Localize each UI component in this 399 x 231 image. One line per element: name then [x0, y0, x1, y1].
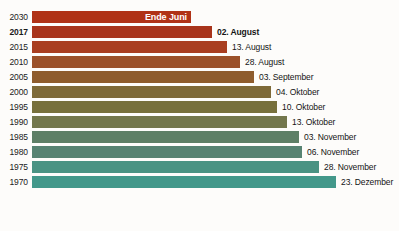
- bar-value-label: 10. Oktober: [282, 101, 325, 113]
- bar-value-label: 28. August: [245, 56, 284, 68]
- bar-track: 10. Oktober: [32, 101, 399, 113]
- bar-2017[interactable]: [32, 26, 212, 38]
- bar-1985[interactable]: [32, 131, 299, 143]
- bar-value-label-inside: Ende Juni: [145, 12, 191, 22]
- bar-1995[interactable]: [32, 101, 277, 113]
- bar-1990[interactable]: [32, 116, 287, 128]
- bar-value-label: 13. August: [232, 41, 271, 53]
- year-axis-label: 1995: [0, 101, 32, 113]
- bar-1975[interactable]: [32, 161, 319, 173]
- chart-row: 200503. September: [0, 69, 399, 84]
- bar-track: Ende Juni: [32, 11, 399, 23]
- year-axis-label: 1990: [0, 116, 32, 128]
- bar-track: 02. August: [32, 26, 399, 38]
- year-axis-label: 2015: [0, 41, 32, 53]
- bar-2000[interactable]: [32, 86, 271, 98]
- bar-track: 03. September: [32, 71, 399, 83]
- year-axis-label: 2000: [0, 86, 32, 98]
- bar-value-label: 04. Oktober: [276, 86, 319, 98]
- bar-value-label: 03. September: [259, 71, 313, 83]
- year-axis-label: 1980: [0, 146, 32, 158]
- year-axis-label: 1970: [0, 176, 32, 188]
- year-axis-label: 2017: [0, 26, 32, 38]
- chart-row: 198006. November: [0, 144, 399, 159]
- bar-track: 13. August: [32, 41, 399, 53]
- year-axis-label: 1975: [0, 161, 32, 173]
- bar-track: 23. Dezember: [32, 176, 399, 188]
- year-axis-label: 2005: [0, 71, 32, 83]
- chart-row: 199013. Oktober: [0, 114, 399, 129]
- year-axis-label: 1985: [0, 131, 32, 143]
- bar-2010[interactable]: [32, 56, 240, 68]
- bar-track: 06. November: [32, 146, 399, 158]
- year-axis-label: 2030: [0, 11, 32, 23]
- bar-track: 28. November: [32, 161, 399, 173]
- bar-track: 13. Oktober: [32, 116, 399, 128]
- bar-2005[interactable]: [32, 71, 254, 83]
- bar-value-label: 03. November: [304, 131, 356, 143]
- bar-2015[interactable]: [32, 41, 227, 53]
- chart-row: 2030Ende Juni: [0, 9, 399, 24]
- chart-row: 197528. November: [0, 159, 399, 174]
- chart-row: 197023. Dezember: [0, 174, 399, 189]
- chart-row: 201513. August: [0, 39, 399, 54]
- bar-track: 03. November: [32, 131, 399, 143]
- bar-value-label: 02. August: [217, 26, 259, 38]
- chart-row: 199510. Oktober: [0, 99, 399, 114]
- bar-value-label: 13. Oktober: [292, 116, 335, 128]
- chart-row: 200004. Oktober: [0, 84, 399, 99]
- chart-row: 201028. August: [0, 54, 399, 69]
- year-axis-label: 2010: [0, 56, 32, 68]
- bar-chart: 2030Ende Juni201702. August201513. Augus…: [0, 0, 399, 231]
- bar-track: 04. Oktober: [32, 86, 399, 98]
- bar-track: 28. August: [32, 56, 399, 68]
- chart-row: 198503. November: [0, 129, 399, 144]
- bar-2030[interactable]: Ende Juni: [32, 11, 191, 23]
- bar-value-label: 23. Dezember: [341, 176, 393, 188]
- bar-1970[interactable]: [32, 176, 336, 188]
- chart-rows: 2030Ende Juni201702. August201513. Augus…: [0, 9, 399, 189]
- bar-value-label: 28. November: [324, 161, 376, 173]
- chart-row: 201702. August: [0, 24, 399, 39]
- bar-value-label: 06. November: [307, 146, 359, 158]
- bar-1980[interactable]: [32, 146, 302, 158]
